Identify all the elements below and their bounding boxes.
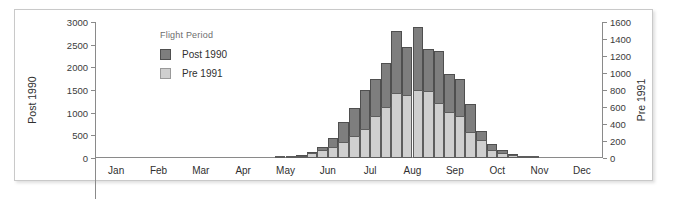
bar-pre-1991 bbox=[391, 93, 402, 158]
y-axis-left-tick-label: 2000 bbox=[67, 62, 88, 73]
bar-pre-1991 bbox=[508, 155, 519, 158]
y-axis-right-tick-label: 800 bbox=[610, 85, 626, 96]
x-axis-month-label: Aug bbox=[404, 165, 422, 176]
bar-pre-1991 bbox=[307, 153, 318, 158]
y-axis-right-tick-label: 0 bbox=[610, 153, 615, 164]
y-axis-left-tick-label: 500 bbox=[72, 130, 88, 141]
bar-pre-1991 bbox=[434, 103, 445, 158]
y-axis-left-tick-label: 0 bbox=[83, 153, 88, 164]
y-axis-right-tick bbox=[603, 22, 607, 23]
x-axis-month-label: Apr bbox=[235, 165, 251, 176]
y-axis-right-tick-label: 600 bbox=[610, 102, 626, 113]
bar-pre-1991 bbox=[370, 116, 381, 158]
bar-pre-1991 bbox=[423, 91, 434, 158]
bar-pre-1991 bbox=[317, 150, 328, 158]
chart-figure: Post 1990 Pre 1991 050010001500200025003… bbox=[0, 0, 694, 199]
bar-pre-1991 bbox=[328, 147, 339, 158]
bar-pre-1991 bbox=[465, 132, 476, 158]
y-axis-right-tick-label: 1000 bbox=[610, 68, 631, 79]
bar-pre-1991 bbox=[497, 153, 508, 158]
y-axis-right-tick bbox=[603, 158, 607, 159]
y-axis-right-tick bbox=[603, 90, 607, 91]
y-axis-right-tick bbox=[603, 107, 607, 108]
bar-pre-1991 bbox=[413, 90, 424, 158]
y-axis-right-tick-label: 1400 bbox=[610, 34, 631, 45]
y-axis-right-tick bbox=[603, 124, 607, 125]
y-axis-right-title: Pre 1991 bbox=[635, 78, 647, 121]
y-axis-right-tick-label: 200 bbox=[610, 136, 626, 147]
y-axis-right-tick bbox=[603, 73, 607, 74]
x-axis-month-label: Oct bbox=[489, 165, 505, 176]
x-axis-month-label: Jan bbox=[108, 165, 124, 176]
x-axis-month-label: Sep bbox=[446, 165, 464, 176]
bar-pre-1991 bbox=[402, 95, 413, 158]
x-axis-month-label: Dec bbox=[573, 165, 591, 176]
bar-pre-1991 bbox=[360, 129, 371, 158]
y-axis-left-tick-label: 1000 bbox=[67, 107, 88, 118]
bar-pre-1991 bbox=[296, 156, 307, 158]
y-axis-right-tick bbox=[603, 141, 607, 142]
y-axis-left-tick bbox=[91, 158, 95, 159]
bar-pre-1991 bbox=[275, 156, 286, 158]
y-axis-right-tick bbox=[603, 39, 607, 40]
y-axis-right-tick bbox=[603, 56, 607, 57]
bar-series-pre-1991 bbox=[95, 22, 603, 158]
y-axis-left-tick-label: 3000 bbox=[67, 17, 88, 28]
x-axis-month-label: Nov bbox=[531, 165, 549, 176]
y-axis-right-tick-label: 1600 bbox=[610, 17, 631, 28]
bar-pre-1991 bbox=[455, 116, 466, 159]
x-axis-month-label: May bbox=[276, 165, 295, 176]
y-axis-right-tick-label: 400 bbox=[610, 119, 626, 130]
y-axis-left-title: Post 1990 bbox=[26, 76, 38, 123]
x-axis-tick bbox=[95, 197, 96, 199]
y-axis-left-tick-label: 2500 bbox=[67, 39, 88, 50]
x-axis-month-label: Mar bbox=[192, 165, 209, 176]
bar-pre-1991 bbox=[349, 136, 360, 158]
bar-pre-1991 bbox=[476, 140, 487, 158]
x-axis-month-label: Feb bbox=[150, 165, 167, 176]
bar-pre-1991 bbox=[444, 112, 455, 158]
bar-pre-1991 bbox=[487, 150, 498, 158]
bar-pre-1991 bbox=[381, 107, 392, 158]
x-axis-month-label: Jun bbox=[320, 165, 336, 176]
y-axis-left-tick-label: 1500 bbox=[67, 85, 88, 96]
bar-pre-1991 bbox=[529, 156, 540, 158]
x-axis-month-label: Jul bbox=[364, 165, 377, 176]
y-axis-right-tick-label: 1200 bbox=[610, 51, 631, 62]
bar-pre-1991 bbox=[286, 156, 297, 158]
plot-area: 050010001500200025003000 020040060080010… bbox=[95, 22, 603, 158]
bar-pre-1991 bbox=[518, 156, 529, 158]
bar-pre-1991 bbox=[338, 142, 349, 158]
